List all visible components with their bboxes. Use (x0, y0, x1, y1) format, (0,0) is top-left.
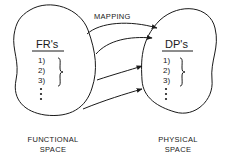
design-mapping-diagram: MAPPING FR's 1) 2) 3) DP's 1) 2) 3) FUNC… (0, 0, 234, 161)
dp-item-3: 3) (163, 76, 170, 85)
dp-ellipsis (165, 88, 167, 100)
mapping-arrow-1 (87, 23, 157, 34)
dp-item-2: 2) (163, 66, 170, 75)
dp-brace (180, 58, 185, 86)
fr-item-2: 2) (38, 66, 45, 75)
physical-space-caption-line1: PHYSICAL (158, 135, 198, 144)
fr-ellipsis (40, 88, 42, 100)
fr-brace (58, 58, 63, 86)
dp-item-1: 1) (163, 56, 170, 65)
mapping-arrow-4 (83, 89, 142, 109)
functional-space-caption-line2: SPACE (40, 145, 66, 154)
mapping-arrow-3 (97, 66, 142, 80)
fr-item-3: 3) (38, 76, 45, 85)
fr-item-1: 1) (38, 56, 45, 65)
dp-header: DP's (165, 38, 188, 50)
mapping-arrow-2 (96, 38, 152, 54)
functional-space-blob (14, 5, 96, 116)
physical-space-caption-line2: SPACE (165, 145, 191, 154)
mapping-label: MAPPING (94, 12, 131, 21)
fr-header: FR's (36, 38, 59, 50)
physical-space-blob (142, 9, 217, 114)
functional-space-caption-line1: FUNCTIONAL (28, 135, 79, 144)
